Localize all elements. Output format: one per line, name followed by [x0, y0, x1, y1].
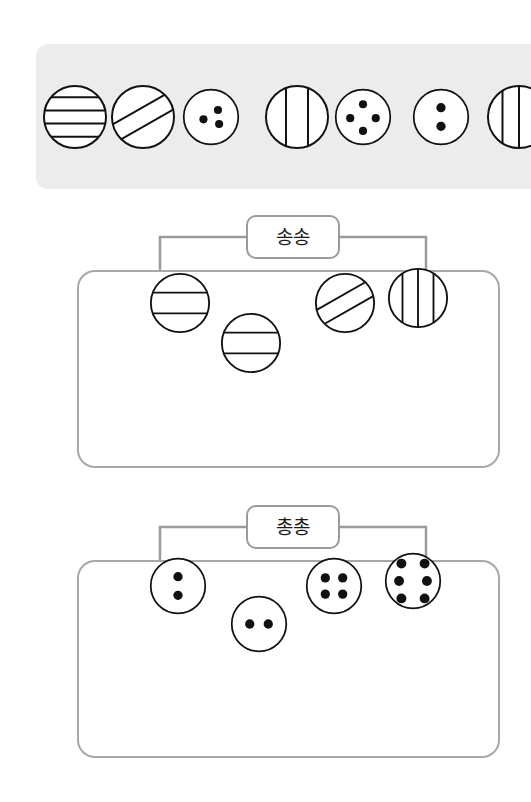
- sorted-item-g1d[interactable]: [387, 267, 449, 329]
- group-label-chip[interactable]: 총총: [246, 505, 340, 549]
- group-chongchong: 총총: [0, 505, 531, 765]
- group-dropzone[interactable]: [77, 270, 500, 468]
- pattern-circle-dots[interactable]: [334, 88, 392, 146]
- pattern-circle-dots[interactable]: [412, 88, 470, 146]
- sorted-item-g1b[interactable]: [220, 312, 282, 374]
- pattern-circle-horizontal-lines[interactable]: [42, 84, 108, 150]
- pattern-circle-dots[interactable]: [305, 557, 363, 615]
- activity-canvas: 송송총총: [0, 0, 531, 802]
- unsorted-pattern-tray[interactable]: [36, 44, 531, 189]
- sorted-item-g1c[interactable]: [314, 272, 376, 334]
- group-dropzone[interactable]: [77, 560, 500, 758]
- tray-item-s3[interactable]: [182, 88, 240, 146]
- pattern-tray-track[interactable]: [36, 44, 531, 189]
- group-songsong: 송송: [0, 215, 531, 475]
- group-label-text: 총총: [276, 518, 311, 537]
- pattern-circle-dots[interactable]: [230, 595, 288, 653]
- sorted-item-g2a[interactable]: [149, 557, 207, 615]
- tray-item-s6[interactable]: [412, 88, 470, 146]
- pattern-circle-dots[interactable]: [384, 552, 442, 610]
- pattern-circle-diagonal-lines[interactable]: [110, 84, 176, 150]
- pattern-circle-dots[interactable]: [182, 88, 240, 146]
- group-label-text: 송송: [276, 228, 311, 247]
- pattern-circle-horizontal-lines[interactable]: [149, 272, 211, 334]
- pattern-circle-vertical-lines[interactable]: [387, 267, 449, 329]
- sorted-item-g2c[interactable]: [305, 557, 363, 615]
- pattern-circle-vertical-lines[interactable]: [264, 84, 330, 150]
- tray-item-s5[interactable]: [334, 88, 392, 146]
- tray-item-s4[interactable]: [264, 84, 330, 150]
- tray-item-s1[interactable]: [42, 84, 108, 150]
- pattern-circle-dots[interactable]: [149, 557, 207, 615]
- tray-item-s2[interactable]: [110, 84, 176, 150]
- pattern-circle-diagonal-lines[interactable]: [314, 272, 376, 334]
- group-label-chip[interactable]: 송송: [246, 215, 340, 259]
- sorted-item-g2b[interactable]: [230, 595, 288, 653]
- sorted-item-g1a[interactable]: [149, 272, 211, 334]
- tray-item-s7[interactable]: [486, 84, 531, 150]
- pattern-circle-horizontal-lines[interactable]: [220, 312, 282, 374]
- pattern-circle-vertical-lines[interactable]: [486, 84, 531, 150]
- sorted-item-g2d[interactable]: [384, 552, 442, 610]
